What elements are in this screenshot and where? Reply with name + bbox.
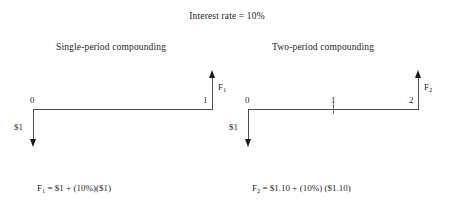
inflow-stem-right (418, 77, 419, 110)
inflow-arrowhead-right (415, 70, 421, 78)
inflow-label-right: F2 (424, 82, 432, 93)
outflow-stem-left (33, 109, 34, 141)
formula-right-line-1: F2 = $1.10 + (10%) ($1.10) (252, 183, 351, 195)
inflow-label-left: F1 (218, 82, 226, 93)
outflow-label-right: $1 (229, 122, 238, 132)
timeline-axis-left (33, 109, 213, 110)
formula-left-line-1-text: = $1 + (10%)($1) (45, 183, 111, 193)
formula-block-right: F2 = $1.10 + (10%) ($1.10) = $1 (1 + .10… (252, 160, 351, 217)
inflow-label-right-subscript: 2 (429, 86, 432, 93)
outflow-arrowhead-left (30, 139, 36, 147)
outflow-stem-right (248, 109, 249, 141)
figure-title: Interest rate = 10% (0, 11, 454, 21)
tick-label-right-2: 2 (409, 95, 414, 105)
tick-label-right-0: 0 (245, 95, 250, 105)
formula-block-left: F1 = $1 + (10%)($1) = $1 (1 + .10) = $1.… (37, 160, 111, 217)
outflow-arrowhead-right (245, 139, 251, 147)
tick-label-left-1: 1 (203, 95, 208, 105)
outflow-label-left: $1 (14, 122, 23, 132)
compounding-timeline-figure: Interest rate = 10% Single-period compou… (0, 0, 454, 217)
panel-heading-single-period: Single-period compounding (56, 42, 166, 52)
formula-right-line-1-sub: 2 (257, 187, 260, 194)
inflow-stem-left (212, 77, 213, 110)
formula-right-line-1-text: = $1.10 + (10%) ($1.10) (260, 183, 350, 193)
panel-heading-two-period: Two-period compounding (272, 42, 374, 52)
inflow-arrowhead-left (209, 70, 215, 78)
tick-label-left-0: 0 (30, 95, 35, 105)
inflow-label-left-subscript: 1 (223, 86, 226, 93)
formula-right-line-2-exponent: 2 (315, 216, 318, 218)
formula-left-line-1: F1 = $1 + (10%)($1) (37, 183, 111, 195)
tick-label-right-1: 1 (331, 95, 336, 105)
formula-left-line-1-sub: 1 (42, 187, 45, 194)
